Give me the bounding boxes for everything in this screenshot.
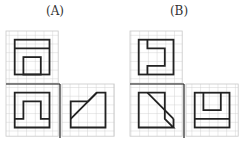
figure-b bbox=[130, 31, 238, 138]
figure-a bbox=[6, 31, 114, 138]
orthographic-views-diagram bbox=[0, 0, 240, 141]
